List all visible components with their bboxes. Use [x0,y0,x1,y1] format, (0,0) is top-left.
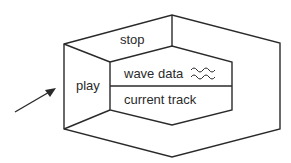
stop-label: stop [120,33,145,46]
nested-hexagon-diagram [0,0,291,163]
play-label: play [76,79,100,92]
connector-top-left [64,44,110,62]
current-track-label: current track [124,93,196,106]
wave-icon [191,68,215,79]
wave-data-label: wave data [124,67,183,80]
arrow-icon [15,88,56,112]
connector-bottom-left [64,110,110,129]
